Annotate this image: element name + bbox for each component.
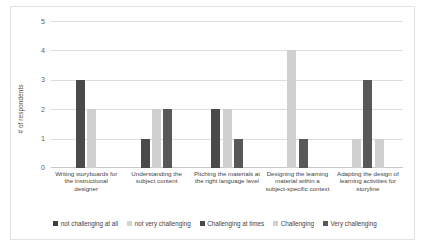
legend-item-4[interactable]: Very challenging: [323, 220, 377, 227]
bar[interactable]: [363, 80, 372, 168]
bar[interactable]: [211, 109, 220, 168]
legend-swatch-icon: [273, 221, 278, 226]
category-axis-labels: Writing storyboards for the instructiona…: [51, 170, 403, 210]
legend-label: Very challenging: [331, 220, 377, 227]
bar-slot: [287, 21, 296, 168]
bar[interactable]: [163, 109, 172, 168]
legend-label: Challenging: [281, 220, 314, 227]
bar-slot: [363, 21, 372, 168]
bar-slot: [299, 21, 308, 168]
legend-item-2[interactable]: Challenging at times: [200, 220, 265, 227]
plot-area: [51, 21, 403, 168]
legend-label: Challenging at times: [207, 220, 264, 227]
bar[interactable]: [375, 139, 384, 168]
bar[interactable]: [152, 109, 161, 168]
y-tick-label-5: 5: [25, 17, 45, 26]
legend-swatch-icon: [200, 221, 205, 226]
bar-slot: [234, 21, 243, 168]
bar[interactable]: [141, 139, 150, 168]
legend-item-1[interactable]: not very challenging: [127, 220, 191, 227]
bar-group: [121, 21, 191, 168]
category-label-3: Designing the learning material within a…: [262, 170, 332, 210]
bar-slot: [163, 21, 172, 168]
bar[interactable]: [352, 139, 361, 168]
bar-group: [262, 21, 332, 168]
y-tick-label-1: 1: [25, 134, 45, 143]
legend-label: not challenging at all: [61, 220, 118, 227]
legend-item-3[interactable]: Challenging: [273, 220, 314, 227]
bar[interactable]: [76, 80, 85, 168]
category-label-2: Pitching the materials at the right lang…: [192, 170, 262, 210]
legend-swatch-icon: [127, 221, 132, 226]
chart-plot-wrapper: # of respondents 5 4 3 2 1 0 Writing sto…: [11, 7, 416, 241]
bar[interactable]: [223, 109, 232, 168]
bar-slot: [375, 21, 384, 168]
legend-item-0[interactable]: not challenging at all: [53, 220, 118, 227]
bar-slot: [223, 21, 232, 168]
bar-slot: [87, 21, 96, 168]
category-label-0: Writing storyboards for the instructiona…: [51, 170, 121, 210]
bar[interactable]: [234, 139, 243, 168]
bar-group: [51, 21, 121, 168]
category-label-4: Adapting the design of learning activiti…: [333, 170, 403, 210]
bar-groups: [51, 21, 403, 168]
legend-label: not very challenging: [135, 220, 191, 227]
legend-swatch-icon: [53, 221, 58, 226]
bar-slot: [152, 21, 161, 168]
y-tick-label-0: 0: [25, 163, 45, 172]
chart-legend: not challenging at allnot very challengi…: [29, 216, 401, 230]
bar[interactable]: [287, 50, 296, 168]
bar-slot: [352, 21, 361, 168]
category-label-1: Understanding the subject content: [121, 170, 191, 210]
bar-slot: [141, 21, 150, 168]
y-tick-label-4: 4: [25, 46, 45, 55]
y-tick-label-2: 2: [25, 105, 45, 114]
legend-swatch-icon: [323, 221, 328, 226]
bar[interactable]: [87, 109, 96, 168]
bar-slot: [76, 21, 85, 168]
bar[interactable]: [299, 139, 308, 168]
bar-slot: [211, 21, 220, 168]
chart-container: # of respondents 5 4 3 2 1 0 Writing sto…: [10, 6, 415, 240]
bar-group: [192, 21, 262, 168]
y-tick-label-3: 3: [25, 75, 45, 84]
bar-group: [333, 21, 403, 168]
